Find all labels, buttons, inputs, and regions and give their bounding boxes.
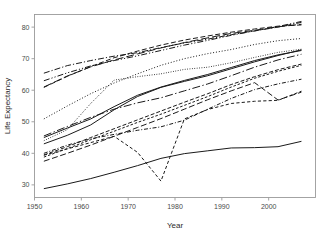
x-tick-label: 1950 bbox=[27, 203, 43, 210]
x-tick-label: 2000 bbox=[261, 203, 277, 210]
y-tick-label: 50 bbox=[22, 118, 30, 125]
x-tick-label: 1960 bbox=[74, 203, 90, 210]
y-tick-label: 30 bbox=[22, 181, 30, 188]
series-line-series-5 bbox=[44, 38, 302, 118]
series-line-series-12 bbox=[44, 79, 302, 153]
series-line-series-2 bbox=[44, 21, 302, 80]
y-axis-title: Life Expectancy bbox=[3, 78, 12, 134]
x-axis-ticks: 195019601970198019902000 bbox=[27, 198, 277, 210]
y-axis-ticks: 304050607080 bbox=[22, 24, 35, 189]
line-chart: 304050607080 195019601970198019902000 Ye… bbox=[0, 0, 328, 233]
chart-container: 304050607080 195019601970198019902000 Ye… bbox=[0, 0, 328, 233]
y-tick-label: 40 bbox=[22, 150, 30, 157]
y-tick-label: 60 bbox=[22, 87, 30, 94]
series-line-series-11 bbox=[44, 65, 302, 157]
series-line-series-7 bbox=[44, 50, 302, 144]
x-axis-title: Year bbox=[167, 221, 184, 230]
x-tick-label: 1970 bbox=[120, 203, 136, 210]
series-line-series-14 bbox=[44, 91, 302, 181]
series-line-series-15 bbox=[44, 141, 302, 188]
x-tick-label: 1980 bbox=[167, 203, 183, 210]
x-tick-label: 1990 bbox=[214, 203, 230, 210]
series-lines bbox=[44, 21, 302, 188]
y-tick-label: 70 bbox=[22, 55, 30, 62]
y-tick-label: 80 bbox=[22, 24, 30, 31]
series-line-series-6 bbox=[44, 49, 302, 141]
